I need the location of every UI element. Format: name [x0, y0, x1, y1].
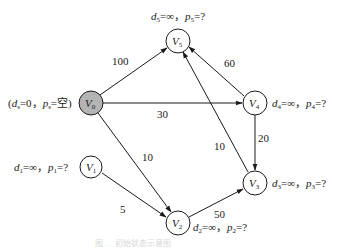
weight-v4-v3: 20	[258, 132, 270, 144]
weight-v4-v5: 60	[224, 57, 236, 69]
edge-v4-v5	[189, 47, 244, 96]
weight-v0-v4: 30	[157, 108, 169, 120]
annotation-v0: (ds=0，ps=空)	[8, 96, 72, 111]
edge-v0-v5	[100, 48, 167, 95]
annotation-v2: d2=∞，p2=?	[193, 221, 247, 235]
node-v1: V1	[80, 156, 102, 178]
edges	[98, 47, 255, 217]
weight-v3-v5: 10	[214, 140, 226, 152]
node-v3: V3	[243, 171, 267, 195]
weight-v0-v5: 100	[112, 55, 129, 67]
annotation-v3: d3=∞，p3=?	[272, 177, 326, 191]
figure-caption: 图 … 初始状态示意图	[95, 238, 171, 248]
node-v5: V5	[166, 29, 190, 53]
node-v4: V4	[243, 91, 267, 115]
graph-diagram: 100 30 10 60 10 20 5 50 V0 V1 V2 V3 V4 V…	[0, 0, 337, 250]
node-v0: V0	[79, 91, 103, 115]
annotation-v5: d5=∞，p5=?	[151, 10, 205, 24]
annotation-v1: d1=∞，p1=?	[14, 161, 68, 175]
edge-v1-v2	[102, 173, 166, 217]
node-v2: V2	[166, 211, 190, 235]
weight-v2-v3: 50	[214, 208, 226, 220]
edge-weights: 100 30 10 60 10 20 5 50	[112, 55, 270, 220]
edge-v0-v2	[98, 113, 171, 212]
weight-v0-v2: 10	[142, 151, 154, 163]
annotation-v4: d4=∞，p4=?	[272, 97, 326, 111]
weight-v1-v2: 5	[120, 203, 126, 215]
